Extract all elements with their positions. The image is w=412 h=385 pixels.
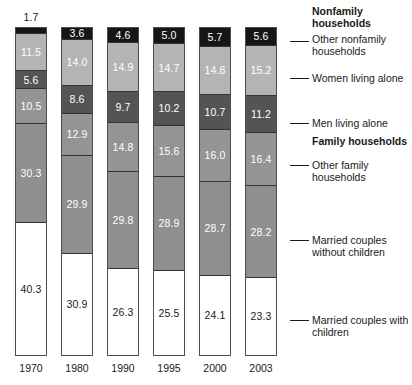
segment-value: 8.6 — [70, 94, 85, 105]
segment-value: 10.5 — [21, 101, 42, 112]
segment-value: 14.8 — [205, 65, 226, 76]
leader-line-other-nonfamily — [290, 41, 309, 42]
x-tick-1970: 1970 — [15, 362, 47, 374]
legend-married-with-children: Married couples with children — [312, 314, 412, 338]
legend-women-living-alone: Women living alone — [312, 72, 412, 84]
legend-group-nonfamily: Nonfamily households — [312, 5, 412, 29]
segment-value: 15.2 — [251, 65, 272, 76]
segment-value: 14.8 — [113, 142, 134, 153]
segment-other-family: 15.6 — [154, 126, 184, 177]
legend-other-family: Other family households — [312, 159, 412, 183]
segment-value: 16.4 — [251, 154, 272, 165]
segment-married-with-children: 30.9 — [62, 254, 92, 355]
stacked-bar-chart: 1.7 11.5 5.6 10.5 30.3 40.3 1970 — [0, 0, 412, 385]
segment-value: 10.7 — [205, 107, 226, 118]
segment-other-family: 10.5 — [16, 89, 46, 123]
segment-value: 25.5 — [159, 308, 180, 319]
segment-married-with-children: 23.3 — [246, 278, 276, 355]
segment-other-nonfamily: 5.6 — [246, 28, 276, 46]
segment-married-without-children: 29.9 — [62, 156, 92, 254]
segment-value: 28.2 — [251, 227, 272, 238]
segment-value: 29.9 — [67, 199, 88, 210]
segment-married-with-children: 26.3 — [108, 269, 138, 355]
segment-other-nonfamily: 5.0 — [154, 28, 184, 44]
segment-value: 11.2 — [251, 109, 271, 120]
x-tick-2000: 2000 — [199, 362, 231, 374]
bar-column-1980: 3.6 14.0 8.6 12.9 29.9 30.9 — [61, 27, 93, 356]
segment-other-family: 16.4 — [246, 133, 276, 187]
x-tick-1990: 1990 — [107, 362, 139, 374]
segment-value: 26.3 — [113, 307, 134, 318]
x-tick-1995: 1995 — [153, 362, 185, 374]
segment-married-without-children: 29.8 — [108, 172, 138, 269]
bar-column-1995: 5.0 14.7 10.2 15.6 28.9 25.5 — [153, 27, 185, 356]
bar-column-1990: 4.6 14.9 9.7 14.8 29.8 26.3 — [107, 27, 139, 356]
segment-women-living-alone: 14.9 — [108, 43, 138, 92]
segment-value: 9.7 — [116, 102, 131, 113]
plot-area: 1.7 11.5 5.6 10.5 30.3 40.3 1970 — [0, 0, 290, 385]
segment-married-without-children: 28.9 — [154, 177, 184, 272]
segment-value: 28.9 — [159, 218, 180, 229]
leader-line-mc-with — [290, 320, 309, 321]
segment-men-living-alone: 10.7 — [200, 95, 230, 130]
segment-value: 5.0 — [162, 30, 177, 41]
segment-value: 12.9 — [67, 129, 88, 140]
stacked-bar: 3.6 14.0 8.6 12.9 29.9 30.9 — [61, 27, 93, 356]
segment-women-living-alone: 11.5 — [16, 34, 46, 72]
segment-value: 15.6 — [159, 146, 180, 157]
segment-value: 5.6 — [24, 75, 39, 86]
segment-value: 11.5 — [21, 47, 41, 58]
segment-value: 4.6 — [116, 30, 131, 41]
segment-other-family: 12.9 — [62, 114, 92, 156]
leader-line-other-family — [290, 165, 309, 166]
legend-other-nonfamily: Other nonfamily households — [312, 33, 412, 57]
segment-women-living-alone: 14.0 — [62, 40, 92, 86]
segment-value: 5.7 — [208, 32, 223, 43]
segment-other-family: 16.0 — [200, 130, 230, 182]
stacked-bar: 5.7 14.8 10.7 16.0 28.7 24.1 — [199, 27, 231, 356]
segment-value: 14.9 — [113, 62, 134, 73]
segment-married-with-children: 25.5 — [154, 271, 184, 355]
segment-married-without-children: 30.3 — [16, 124, 46, 223]
segment-women-living-alone: 15.2 — [246, 46, 276, 96]
segment-women-living-alone: 14.7 — [154, 44, 184, 92]
segment-men-living-alone: 8.6 — [62, 86, 92, 114]
segment-value: 29.8 — [113, 215, 134, 226]
segment-married-without-children: 28.7 — [200, 182, 230, 276]
legend-group-family: Family households — [312, 135, 412, 147]
segment-married-without-children: 28.2 — [246, 186, 276, 278]
segment-other-family: 14.8 — [108, 123, 138, 171]
segment-value: 30.3 — [21, 168, 42, 179]
segment-value: 28.7 — [205, 223, 226, 234]
stacked-bar: 1.7 11.5 5.6 10.5 30.3 40.3 — [15, 27, 47, 356]
segment-value: 40.3 — [21, 284, 42, 295]
segment-value: 5.6 — [254, 31, 269, 42]
bar-column-2003: 5.6 15.2 11.2 16.4 28.2 23.3 — [245, 27, 277, 356]
leader-line-women-alone — [290, 78, 309, 79]
leader-line-mc-without — [290, 240, 309, 241]
segment-value: 24.1 — [205, 310, 226, 321]
segment-men-living-alone: 5.6 — [16, 71, 46, 89]
legend-married-without-children: Married couples without children — [312, 234, 412, 258]
leader-line-men-alone — [290, 123, 309, 124]
segment-married-with-children: 40.3 — [16, 223, 46, 355]
segment-value: 14.0 — [67, 57, 88, 68]
segment-value: 10.2 — [159, 103, 180, 114]
legend-annotations: Nonfamily households Other nonfamily hou… — [290, 0, 412, 385]
bar-column-1970: 1.7 11.5 5.6 10.5 30.3 40.3 — [15, 27, 47, 356]
segment-other-nonfamily: 4.6 — [108, 28, 138, 43]
x-tick-1980: 1980 — [61, 362, 93, 374]
segment-married-with-children: 24.1 — [200, 276, 230, 355]
segment-value: 1.7 — [24, 12, 39, 23]
segment-other-nonfamily: 3.6 — [62, 28, 92, 40]
segment-value: 16.0 — [205, 150, 226, 161]
segment-value: 23.3 — [251, 311, 272, 322]
stacked-bar: 5.6 15.2 11.2 16.4 28.2 23.3 — [245, 27, 277, 356]
segment-men-living-alone: 11.2 — [246, 96, 276, 133]
stacked-bar: 4.6 14.9 9.7 14.8 29.8 26.3 — [107, 27, 139, 356]
segment-value: 14.7 — [159, 63, 180, 74]
stacked-bar: 5.0 14.7 10.2 15.6 28.9 25.5 — [153, 27, 185, 356]
bar-column-2000: 5.7 14.8 10.7 16.0 28.7 24.1 — [199, 27, 231, 356]
segment-men-living-alone: 10.2 — [154, 92, 184, 125]
segment-women-living-alone: 14.8 — [200, 47, 230, 95]
